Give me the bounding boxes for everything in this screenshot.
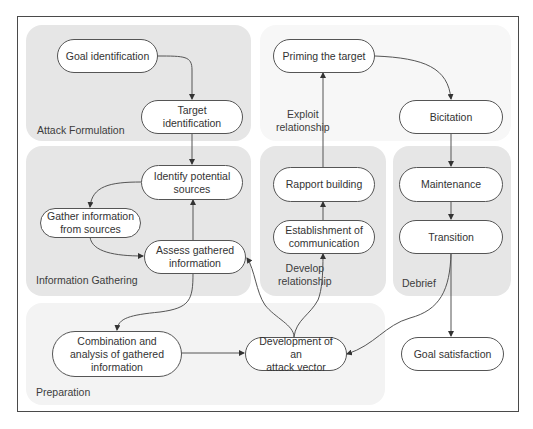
node-gather-line2: from sources [60,223,121,236]
node-establishment-line1: Establishment of [285,224,363,237]
node-development-line1: Development of an [252,335,340,361]
edge-label-exploit-line2: relationship [276,121,330,134]
node-target-identification[interactable]: Target identification [141,100,243,134]
node-maintenance[interactable]: Maintenance [399,167,503,202]
node-transition-label: Transition [428,231,474,244]
node-gather-line1: Gather information [47,210,134,223]
node-goal-satisfaction[interactable]: Goal satisfaction [401,337,504,371]
node-rapport-building[interactable]: Rapport building [273,167,375,202]
node-maintenance-label: Maintenance [421,178,481,191]
node-establishment-communication[interactable]: Establishment of communication [273,220,375,254]
node-priming-target[interactable]: Priming the target [273,39,375,73]
panel-label-develop-line1: Develop [278,262,332,275]
panel-label-preparation: Preparation [36,386,90,398]
node-combination-line3: information [91,361,143,374]
panel-label-information-gathering: Information Gathering [36,274,138,286]
node-assess-line1: Assess gathered [156,244,234,257]
node-combination-analysis[interactable]: Combination and analysis of gathered inf… [52,331,182,377]
node-goal-satisfaction-label: Goal satisfaction [414,348,492,361]
node-goal-identification-label: Goal identification [66,50,149,63]
node-development-attack-vector[interactable]: Development of an attack vector [245,337,347,371]
node-rapport-label: Rapport building [286,178,362,191]
panel-label-debrief: Debrief [402,277,436,289]
edge-label-exploit-relationship: Exploit relationship [276,108,330,134]
node-transition[interactable]: Transition [399,220,503,254]
panel-label-attack-formulation: Attack Formulation [37,124,125,136]
node-identify-line1: Identify potential [154,170,230,183]
node-goal-identification[interactable]: Goal identification [57,39,158,73]
node-gather-information[interactable]: Gather information from sources [40,208,141,238]
node-assess-gathered[interactable]: Assess gathered information [144,240,246,274]
node-combination-line2: analysis of gathered [70,348,164,361]
node-target-identification-label: Target identification [148,104,236,130]
node-combination-line1: Combination and [77,335,156,348]
panel-label-develop-line2: relationship [278,275,332,288]
node-identify-potential-sources[interactable]: Identify potential sources [141,165,243,200]
panel-label-develop-relationship: Develop relationship [278,262,332,288]
node-bicitation-label: Bicitation [430,111,473,124]
node-priming-label: Priming the target [283,50,366,63]
edge-label-exploit-line1: Exploit [276,108,330,121]
node-assess-line2: information [169,257,221,270]
node-identify-line2: sources [174,183,211,196]
node-development-line2: attack vector [266,361,326,374]
node-bicitation[interactable]: Bicitation [399,100,503,134]
node-establishment-line2: communication [289,237,360,250]
